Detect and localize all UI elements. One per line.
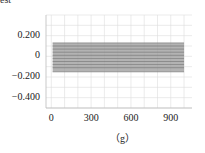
y-tick-label: 0.200 — [0, 29, 40, 40]
y-tick-label: −0.200 — [0, 70, 40, 81]
y-tick-label: 0 — [0, 49, 40, 60]
x-tick-label: 600 — [116, 112, 146, 123]
x-tick-label: 900 — [156, 112, 186, 123]
x-tick-label: 0 — [36, 112, 66, 123]
x-tick-label: 300 — [76, 112, 106, 123]
y-tick-label: −0.400 — [0, 91, 40, 102]
figure-caption: （g） — [110, 130, 135, 145]
